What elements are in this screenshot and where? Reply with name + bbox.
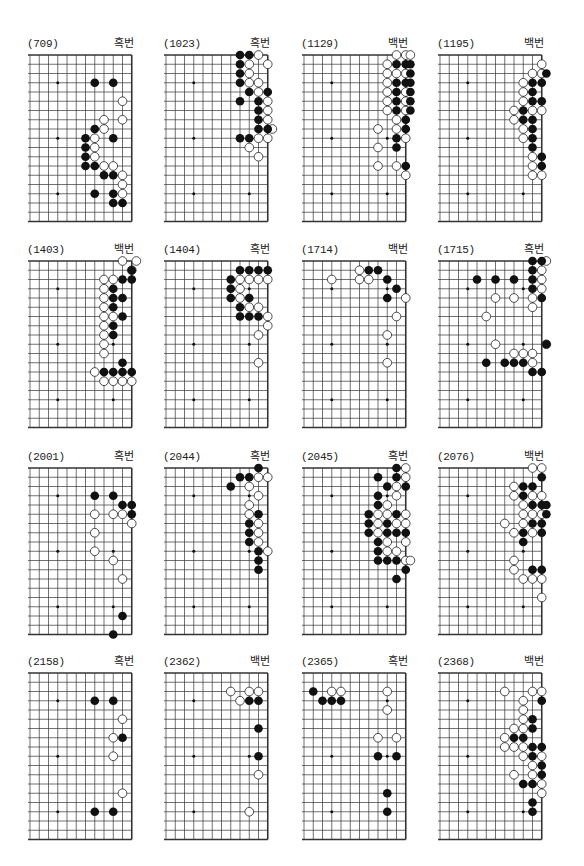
black-stone-icon <box>374 266 383 275</box>
white-stone-icon <box>254 303 263 312</box>
black-stone-icon <box>236 97 245 106</box>
black-stone-icon <box>236 312 245 321</box>
white-stone-icon <box>245 687 254 696</box>
black-stone-icon <box>81 143 90 152</box>
white-stone-icon <box>537 266 546 275</box>
star-point-icon <box>112 398 115 401</box>
white-stone-icon <box>392 312 401 321</box>
white-stone-icon <box>383 538 392 547</box>
turn-to-play-label: 백번 <box>524 34 544 50</box>
go-board-diagram <box>301 465 417 638</box>
black-stone-icon <box>528 501 537 510</box>
white-stone-icon <box>519 752 528 761</box>
white-stone-icon <box>491 340 500 349</box>
white-stone-icon <box>263 134 272 143</box>
star-point-icon <box>466 287 469 290</box>
black-stone-icon <box>254 565 263 574</box>
black-stone-icon <box>318 696 327 705</box>
black-stone-icon <box>245 519 254 528</box>
star-point-icon <box>466 192 469 195</box>
star-point-icon <box>330 398 333 401</box>
black-stone-icon <box>528 266 537 275</box>
white-stone-icon <box>109 733 118 742</box>
star-point-icon <box>386 343 389 346</box>
black-stone-icon <box>118 199 127 208</box>
turn-to-play-label: 백번 <box>524 652 544 668</box>
black-stone-icon <box>90 78 99 87</box>
go-board-diagram <box>27 670 143 843</box>
white-stone-icon <box>263 97 272 106</box>
white-stone-icon <box>528 303 537 312</box>
star-point-icon <box>192 605 195 608</box>
black-stone-icon <box>528 798 537 807</box>
black-stone-icon <box>118 358 127 367</box>
white-stone-icon <box>383 706 392 715</box>
black-stone-icon <box>528 780 537 789</box>
problem-number: (2362) <box>163 656 201 668</box>
star-point-icon <box>466 605 469 608</box>
black-stone-icon <box>81 134 90 143</box>
white-stone-icon <box>374 125 383 134</box>
black-stone-icon <box>406 88 415 97</box>
white-stone-icon <box>254 770 263 779</box>
problem-number: (1023) <box>163 38 201 50</box>
star-point-icon <box>56 605 59 608</box>
white-stone-icon <box>109 377 118 386</box>
black-stone-icon <box>401 528 410 537</box>
white-stone-icon <box>537 464 546 473</box>
black-stone-icon <box>109 134 118 143</box>
black-stone-icon <box>109 294 118 303</box>
star-point-icon <box>386 192 389 195</box>
black-stone-icon <box>263 125 272 134</box>
black-stone-icon <box>263 88 272 97</box>
white-stone-icon <box>510 491 519 500</box>
white-stone-icon <box>528 152 537 161</box>
black-stone-icon <box>383 528 392 537</box>
white-stone-icon <box>510 743 519 752</box>
white-stone-icon <box>118 115 127 124</box>
black-stone-icon <box>406 97 415 106</box>
white-stone-icon <box>510 770 519 779</box>
star-point-icon <box>386 137 389 140</box>
black-stone-icon <box>383 519 392 528</box>
black-stone-icon <box>236 266 245 275</box>
black-stone-icon <box>537 743 546 752</box>
star-point-icon <box>192 343 195 346</box>
star-point-icon <box>522 398 525 401</box>
black-stone-icon <box>519 491 528 500</box>
star-point-icon <box>248 605 251 608</box>
black-stone-icon <box>401 162 410 171</box>
black-stone-icon <box>100 171 109 180</box>
star-point-icon <box>248 343 251 346</box>
black-stone-icon <box>364 266 373 275</box>
black-stone-icon <box>364 528 373 537</box>
black-stone-icon <box>500 358 509 367</box>
problem-number: (1129) <box>301 38 339 50</box>
white-stone-icon <box>374 519 383 528</box>
white-stone-icon <box>263 547 272 556</box>
white-stone-icon <box>519 743 528 752</box>
black-stone-icon <box>537 770 546 779</box>
white-stone-icon <box>519 575 528 584</box>
white-stone-icon <box>263 275 272 284</box>
black-stone-icon <box>254 556 263 565</box>
star-point-icon <box>192 755 195 758</box>
white-stone-icon <box>491 294 500 303</box>
black-stone-icon <box>236 60 245 69</box>
black-stone-icon <box>226 482 235 491</box>
black-stone-icon <box>236 51 245 60</box>
black-stone-icon <box>236 134 245 143</box>
black-stone-icon <box>406 60 415 69</box>
white-stone-icon <box>337 687 346 696</box>
black-stone-icon <box>537 473 546 482</box>
white-stone-icon <box>392 51 401 60</box>
star-point-icon <box>56 192 59 195</box>
white-stone-icon <box>519 88 528 97</box>
white-stone-icon <box>528 528 537 537</box>
white-stone-icon <box>500 519 509 528</box>
problem-1195: (1195) 백번 <box>437 38 577 238</box>
white-stone-icon <box>528 575 537 584</box>
problem-number: (1403) <box>27 244 65 256</box>
white-stone-icon <box>245 69 254 78</box>
white-stone-icon <box>392 547 401 556</box>
